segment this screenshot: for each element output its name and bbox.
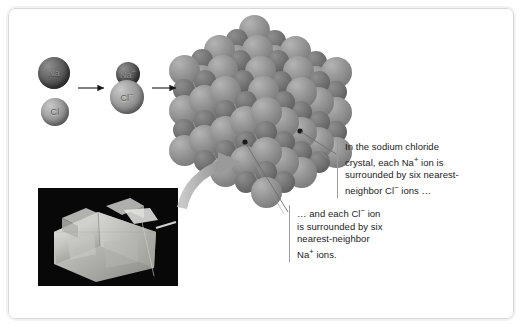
chlorine-atom-label: Cl: [51, 108, 60, 117]
crystal-lattice: [176, 14, 342, 174]
chloride-callout-line4-suffix: ions.: [314, 249, 337, 260]
sodium-callout-line-2: crystal, each Na+ ion is: [345, 154, 495, 170]
sodium-callout-line4-prefix: neighbor Cl: [345, 185, 394, 196]
chloride-callout-line1-prefix: … and each Cl: [297, 208, 361, 219]
chloride-callout-line-1: … and each Cl− ion: [297, 205, 447, 221]
sodium-callout-text: In the sodium chloride crystal, each Na+…: [337, 141, 495, 198]
chloride-callout-line-2: is surrounded by six: [297, 221, 447, 234]
sodium-callout-line2-suffix: ion is: [418, 157, 443, 168]
sodium-atom-label: Na: [48, 69, 60, 78]
crystal-photo-art: [38, 188, 178, 286]
sodium-callout-line-4: neighbor Cl− ions …: [345, 182, 495, 198]
halite-crystal-photograph: [38, 188, 178, 286]
sodium-ion-symbol: Na: [120, 70, 132, 80]
chloride-ion-sphere: Cl−: [110, 80, 144, 114]
lattice-chloride-ion: [251, 177, 282, 208]
sodium-callout-line2-prefix: crystal, each Na: [345, 157, 414, 168]
chloride-ion-symbol: Cl: [120, 93, 129, 103]
sodium-callout-line-3: surrounded by six nearest-: [345, 169, 495, 182]
figure-root: Na Cl Na+ Cl−: [0, 0, 526, 331]
chloride-ion-label: Cl−: [120, 91, 133, 103]
chlorine-atom-sphere: Cl: [41, 98, 69, 126]
sodium-atom-sphere: Na: [38, 57, 70, 89]
chloride-callout-line-4: Na+ ions.: [297, 246, 447, 262]
chloride-callout-line4-prefix: Na: [297, 249, 309, 260]
sodium-callout-line-1: In the sodium chloride: [345, 141, 495, 154]
chloride-callout-text: … and each Cl− ion is surrounded by six …: [289, 205, 447, 262]
chloride-callout-line1-suffix: ion: [365, 208, 381, 219]
sodium-ion-label: Na+: [120, 68, 136, 80]
chloride-callout-line-3: nearest-neighbor: [297, 233, 447, 246]
sodium-ion-charge: +: [132, 68, 136, 75]
chloride-ion-charge: −: [129, 91, 133, 98]
sodium-callout-line4-suffix: ions …: [399, 185, 432, 196]
